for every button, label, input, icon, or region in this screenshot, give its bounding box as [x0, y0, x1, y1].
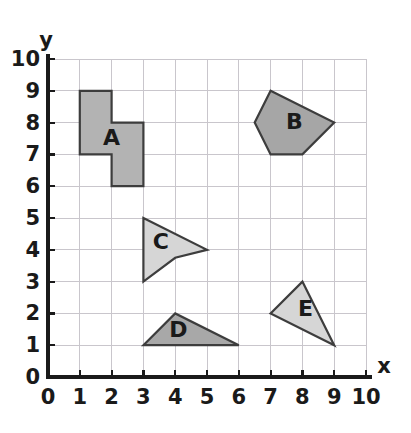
tick-labels: 012345678910012345678910	[11, 47, 381, 409]
y-axis-tick-label: 5	[25, 206, 40, 230]
y-axis-tick-label: 1	[25, 333, 40, 357]
y-axis-tick-label: 10	[11, 47, 40, 71]
x-axis-tick-label: 7	[263, 385, 278, 409]
x-axis-tick-label: 8	[295, 385, 310, 409]
x-axis-tick-label: 2	[104, 385, 119, 409]
y-axis-label: y	[39, 28, 53, 52]
y-axis-tick-label: 7	[25, 142, 40, 166]
x-axis-tick-label: 9	[327, 385, 342, 409]
shape-label-a: A	[103, 125, 120, 150]
x-axis-tick-label: 0	[41, 385, 56, 409]
y-axis-tick-label: 6	[25, 174, 40, 198]
x-axis-tick-label: 5	[200, 385, 215, 409]
x-axis-tick-label: 4	[168, 385, 183, 409]
y-axis-tick-label: 9	[25, 79, 40, 103]
y-axis-tick-label: 8	[25, 111, 40, 135]
y-axis-tick-label: 3	[25, 270, 40, 294]
plot-svg: 012345678910012345678910 yx ABCDE	[0, 0, 411, 433]
x-axis-tick-label: 10	[351, 385, 380, 409]
y-axis-tick-label: 0	[25, 365, 40, 389]
y-axis-tick-label: 2	[25, 301, 40, 325]
y-axis-tick-label: 4	[25, 238, 40, 262]
shape-label-e: E	[298, 296, 313, 321]
shape-label-d: D	[169, 317, 187, 342]
x-axis-tick-label: 3	[136, 385, 151, 409]
shape-label-b: B	[286, 109, 303, 134]
x-axis-label: x	[377, 354, 391, 378]
shape-label-c: C	[153, 229, 169, 254]
coordinate-grid-plot: 012345678910012345678910 yx ABCDE	[0, 0, 411, 433]
shape-d	[143, 313, 238, 345]
x-axis-tick-label: 1	[72, 385, 87, 409]
x-axis-tick-label: 6	[231, 385, 246, 409]
axis-names: yx	[39, 28, 391, 378]
